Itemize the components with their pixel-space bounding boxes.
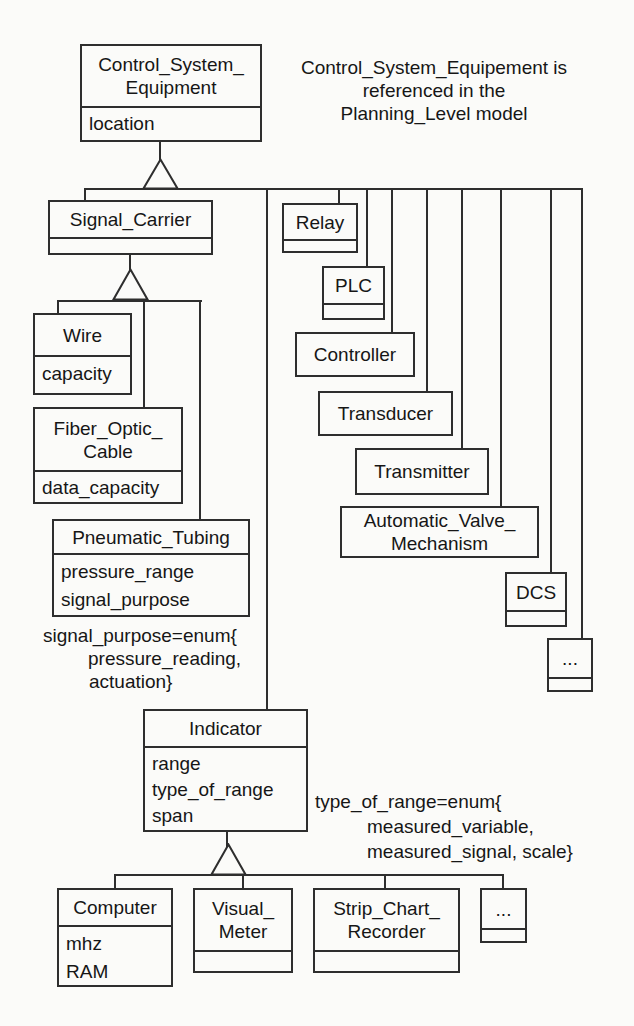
class-box-transmitter: Transmitter [355,448,489,495]
diagram-page: Control_System_ Equipment location Signa… [0,0,634,1026]
empty-attribute-compartment [315,952,458,971]
connector-transducer [426,188,428,393]
class-title-line: Indicator [189,717,262,740]
class-box-transducer: Transducer [318,391,453,436]
connector-indicator [266,188,268,711]
class-title-line: Equipment [126,76,217,99]
connector-transmitter [461,188,463,450]
class-title-line: PLC [335,274,372,297]
class-title-line: Pneumatic_Tubing [72,526,230,549]
class-title-line: ... [496,898,512,921]
class-title-line: Relay [296,211,345,234]
inheritance-triangle-indicator [210,843,247,876]
connector-ellipsis-right [581,188,583,640]
class-box-indicator: Indicator range type_of_range span [143,709,308,832]
class-box-controller: Controller [295,332,415,377]
connector-controller [391,188,393,334]
class-title-line: Cable [83,440,133,463]
class-title-line: ... [562,647,578,670]
empty-attribute-compartment [507,612,565,625]
empty-attribute-compartment [195,952,291,971]
class-box-wire: Wire capacity [33,313,132,395]
attribute-signal-purpose: signal_purpose [61,586,242,614]
class-title-line: Fiber_Optic_ [54,417,163,440]
class-title-line: Transmitter [374,460,469,483]
class-box-computer: Computer mhz RAM [57,888,173,987]
class-box-automatic-valve-mechanism: Automatic_Valve_ Mechanism [340,506,539,558]
empty-attribute-compartment [50,239,211,253]
connector-fiber-optic-cable [143,300,145,409]
empty-attribute-compartment [549,679,591,690]
class-box-ellipsis-bottom: ... [480,888,527,943]
empty-attribute-compartment [284,241,356,251]
connector-dcs [550,188,552,574]
class-box-visual-meter: Visual_ Meter [193,888,293,973]
attribute-type-of-range: type_of_range [152,777,300,803]
attribute-mhz: mhz [66,930,165,958]
connector-plc [366,188,368,268]
class-box-ellipsis-right: ... [547,638,593,692]
class-title-line: Control_System_ [98,53,244,76]
generalization-rail-indicator [114,874,504,876]
inheritance-triangle-top [142,158,179,190]
class-title-line: Controller [314,343,396,366]
attribute-ram: RAM [66,958,165,986]
attribute-pressure-range: pressure_range [61,558,242,586]
class-box-pneumatic-tubing: Pneumatic_Tubing pressure_range signal_p… [52,519,250,617]
attribute-capacity: capacity [35,357,130,393]
class-box-fiber-optic-cable: Fiber_Optic_ Cable data_capacity [33,407,183,504]
attribute-span: span [152,803,300,829]
class-title-line: Visual_ [212,897,274,920]
class-title-line: Computer [73,896,156,919]
class-title-line: Wire [63,324,102,347]
attribute-range: range [152,751,300,777]
class-title-line: Mechanism [391,532,488,555]
class-title-line: Recorder [347,920,425,943]
generalization-rail-top [84,188,583,190]
empty-attribute-compartment [482,930,525,941]
note-type-of-range-enum: type_of_range=enum{ measured_variable, m… [315,789,573,864]
class-title-line: Automatic_Valve_ [364,509,516,532]
class-box-signal-carrier: Signal_Carrier [48,200,213,255]
attribute-data-capacity: data_capacity [35,472,181,502]
class-title-line: DCS [516,581,556,604]
connector-pneumatic-tubing [199,300,201,521]
note-signal-purpose-enum: signal_purpose=enum{ pressure_reading, a… [43,624,241,693]
inheritance-triangle-signal-carrier [112,268,149,301]
connector-automatic-valve-mechanism [500,188,502,508]
class-title-line: Signal_Carrier [70,208,191,231]
class-box-dcs: DCS [505,572,567,627]
empty-attribute-compartment [324,305,383,318]
generalization-rail-signal-carrier [57,300,202,302]
class-title-line: Strip_Chart_ [333,897,440,920]
attribute-location: location [82,108,260,140]
class-box-plc: PLC [322,266,385,320]
class-box-strip-chart-recorder: Strip_Chart_ Recorder [313,888,460,973]
note-planning-level-reference: Control_System_Equipement is referenced … [266,56,602,125]
class-box-control-system-equipment: Control_System_ Equipment location [80,44,262,142]
class-box-relay: Relay [282,203,358,253]
class-title-line: Meter [219,920,268,943]
class-title-line: Transducer [338,402,433,425]
